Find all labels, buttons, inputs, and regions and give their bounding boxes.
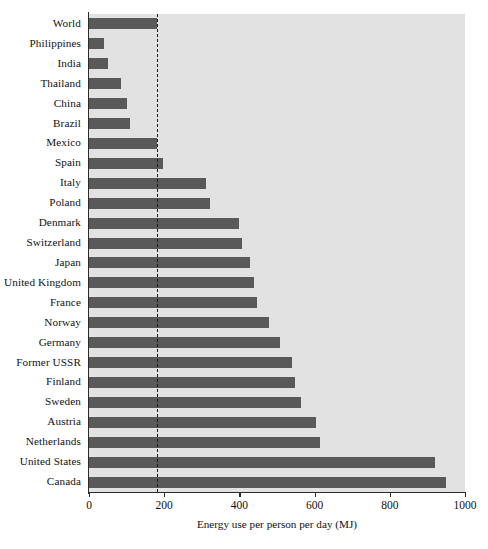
bar [89, 297, 257, 308]
category-label: United States [0, 456, 81, 467]
bar [89, 397, 301, 408]
x-tick-label: 200 [134, 499, 194, 512]
x-tick [315, 492, 316, 497]
category-label: Former USSR [0, 357, 81, 368]
x-tick [390, 492, 391, 497]
category-label: Austria [0, 416, 81, 427]
world-average-reference-line [157, 14, 158, 492]
category-label: Switzerland [0, 237, 81, 248]
category-label: World [0, 18, 81, 29]
bar-chart-figure: WorldPhilippinesIndiaThailandChinaBrazil… [0, 0, 488, 549]
x-tick [89, 492, 90, 497]
bar [89, 98, 127, 109]
bar [89, 18, 157, 29]
category-label: France [0, 297, 81, 308]
bar [89, 118, 130, 129]
category-label: Spain [0, 157, 81, 168]
bar [89, 158, 163, 169]
bar [89, 78, 121, 89]
bar [89, 457, 435, 468]
bar [89, 198, 210, 209]
x-tick-label: 400 [209, 499, 269, 512]
bar [89, 218, 239, 229]
x-tick-label: 1000 [435, 499, 488, 512]
bar [89, 437, 320, 448]
x-axis-line [88, 492, 466, 493]
plot-area [89, 14, 465, 492]
category-label: Italy [0, 177, 81, 188]
category-label: Sweden [0, 396, 81, 407]
category-label: Denmark [0, 217, 81, 228]
x-tick-label: 0 [59, 499, 119, 512]
category-label: Thailand [0, 78, 81, 89]
bar [89, 138, 157, 149]
category-label: India [0, 58, 81, 69]
bar [89, 257, 250, 268]
x-tick [465, 492, 466, 497]
bar [89, 317, 269, 328]
x-tick-label: 600 [285, 499, 345, 512]
category-label: Canada [0, 476, 81, 487]
category-label: Netherlands [0, 436, 81, 447]
x-tick [164, 492, 165, 497]
category-label: Brazil [0, 118, 81, 129]
category-label: Finland [0, 376, 81, 387]
bar [89, 357, 292, 368]
bar [89, 417, 316, 428]
bar [89, 377, 295, 388]
category-axis-labels: WorldPhilippinesIndiaThailandChinaBrazil… [0, 14, 85, 492]
category-label: China [0, 98, 81, 109]
bar [89, 477, 446, 488]
bar [89, 238, 242, 249]
category-label: Japan [0, 257, 81, 268]
category-label: Philippines [0, 38, 81, 49]
bar [89, 277, 254, 288]
x-tick-label: 800 [360, 499, 420, 512]
category-label: United Kingdom [0, 277, 81, 288]
category-label: Norway [0, 317, 81, 328]
x-axis-title: Energy use per person per day (MJ) [89, 518, 465, 530]
category-label: Germany [0, 337, 81, 348]
category-label: Mexico [0, 137, 81, 148]
x-tick [239, 492, 240, 497]
bar [89, 38, 104, 49]
category-label: Poland [0, 197, 81, 208]
bar [89, 178, 206, 189]
bar [89, 58, 108, 69]
bar [89, 337, 280, 348]
